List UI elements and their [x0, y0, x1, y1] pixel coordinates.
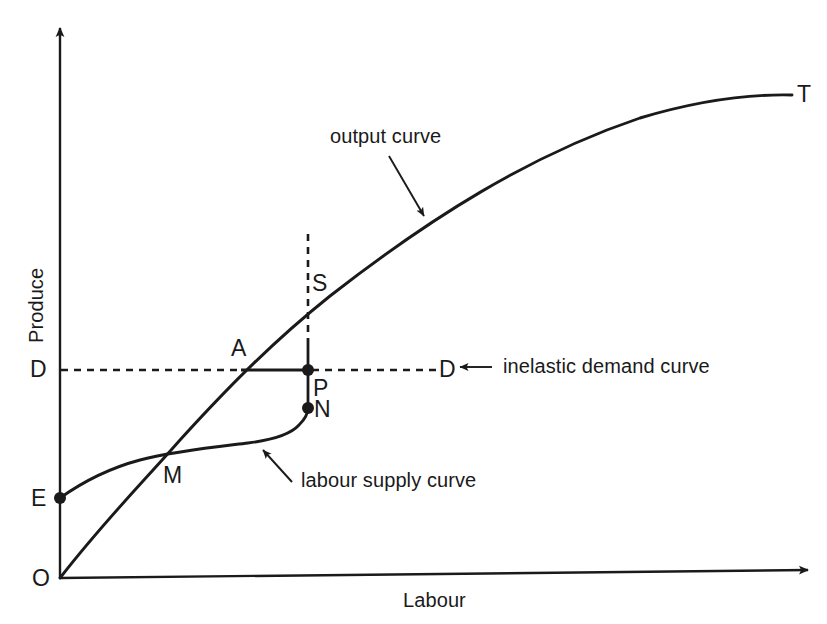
point-label-a: A	[231, 337, 246, 360]
point-marker-n	[302, 402, 314, 414]
point-label-n: N	[314, 398, 331, 421]
annotation-output-curve: output curve	[330, 126, 441, 146]
x-axis-label: Labour	[403, 590, 466, 610]
economics-diagram: Produce Labour O E M A S P N D D T outpu…	[0, 0, 827, 624]
point-label-origin: O	[32, 567, 50, 590]
x-axis	[60, 570, 808, 578]
point-label-e: E	[31, 487, 46, 510]
labour-supply-curve	[60, 408, 308, 498]
annotation-labour-supply-curve: labour supply curve	[301, 470, 476, 490]
diagram-canvas	[0, 0, 827, 624]
annotation-inelastic-demand-curve: inelastic demand curve	[503, 356, 710, 376]
point-label-d-axis: D	[30, 358, 47, 381]
point-marker-e	[54, 492, 66, 504]
output-curve-leader-arrow	[389, 156, 424, 216]
point-label-t: T	[797, 83, 811, 106]
output-curve	[60, 95, 792, 578]
point-label-m: M	[163, 464, 182, 487]
labour-supply-curve-leader-arrow	[263, 450, 292, 482]
y-axis-label: Produce	[26, 268, 46, 343]
point-label-s: S	[312, 272, 327, 295]
point-label-d-end: D	[439, 358, 456, 381]
